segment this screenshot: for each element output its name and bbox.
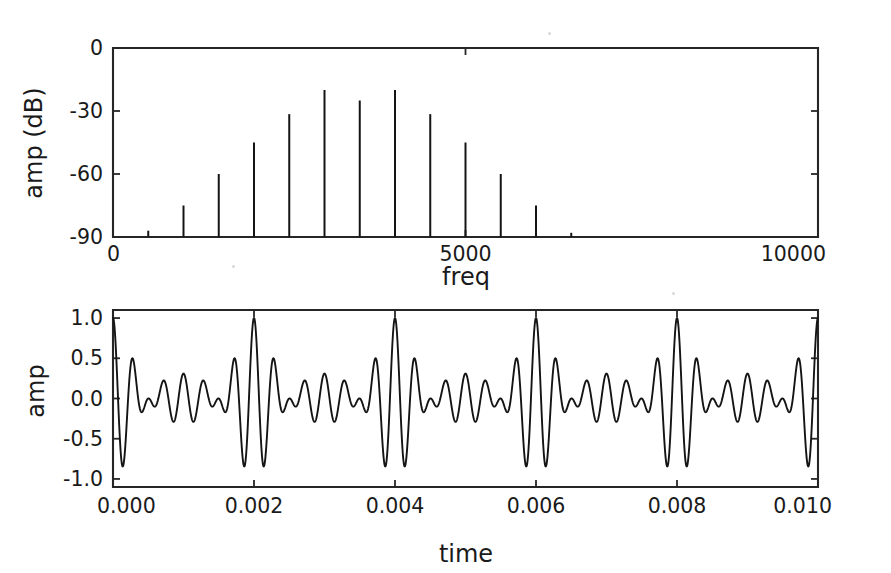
waveform-y-tick-label: -0.5	[63, 427, 103, 451]
waveform-x-tick-label: 0.004	[366, 494, 425, 518]
spectrum-svg: 0500010000 0-30-60-90 freq amp (dB)	[0, 0, 891, 290]
waveform-y-axis-label: amp	[22, 364, 50, 417]
waveform-x-tick-label: 0.002	[225, 494, 284, 518]
waveform-plot-panel: 0.0000.0020.0040.0060.0080.010 1.00.50.0…	[0, 283, 891, 573]
waveform-y-tick-label: 1.0	[70, 306, 103, 330]
waveform-x-tick-label: 0.010	[773, 494, 832, 518]
spectrum-stems	[148, 90, 571, 237]
waveform-y-tick-label: 0.5	[70, 346, 103, 370]
waveform-x-tick-label: 0.000	[97, 494, 156, 518]
waveform-y-tick-labels: 1.00.50.0-0.5-1.0	[63, 306, 103, 491]
spectrum-y-tick-labels: 0-30-60-90	[70, 36, 103, 249]
spectrum-y-axis-label: amp (dB)	[20, 87, 48, 198]
waveform-y-tick-label: -1.0	[63, 467, 103, 491]
spectrum-y-tick-label: -60	[70, 162, 103, 186]
figure-canvas: 0500010000 0-30-60-90 freq amp (dB) 0.00…	[0, 0, 891, 573]
waveform-svg: 0.0000.0020.0040.0060.0080.010 1.00.50.0…	[0, 283, 891, 573]
spectrum-plot-panel: 0500010000 0-30-60-90 freq amp (dB)	[0, 0, 891, 290]
waveform-x-axis-label: time	[439, 540, 493, 568]
spectrum-x-tick-label: 10000	[761, 242, 826, 266]
spectrum-y-tick-label: -30	[70, 99, 103, 123]
waveform-y-tick-label: 0.0	[70, 387, 103, 411]
waveform-x-tick-label: 0.006	[507, 494, 566, 518]
spectrum-y-tick-label: 0	[90, 36, 103, 60]
waveform-x-tick-label: 0.008	[648, 494, 707, 518]
spectrum-y-tick-label: -90	[70, 225, 103, 249]
spectrum-x-tick-label: 0	[107, 242, 120, 266]
waveform-trace	[113, 318, 818, 466]
waveform-x-tick-labels: 0.0000.0020.0040.0060.0080.010	[97, 494, 832, 518]
